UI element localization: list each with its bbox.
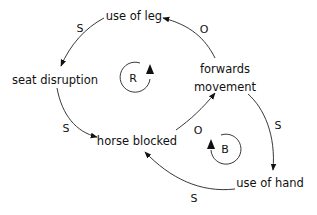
loop-arrow-b-icon	[207, 139, 215, 149]
node-horse-blocked: horse blocked	[97, 134, 177, 148]
loop-indicator-reinforcing: R	[120, 62, 154, 92]
loop-label-b: B	[221, 143, 229, 156]
link-forwards-movement-to-use-of-hand	[248, 94, 273, 170]
loop-indicator-balancing: B	[207, 134, 241, 164]
node-forwards-movement-line2: movement	[194, 80, 257, 94]
causal-loop-diagram: use of leg seat disruption horse blocked…	[0, 0, 317, 215]
node-seat-disruption: seat disruption	[12, 73, 98, 87]
polarity-label-forwards-to-leg: O	[200, 23, 209, 36]
polarity-label-forwards-to-hand: S	[275, 119, 282, 132]
polarity-label-blocked-to-forwards: O	[194, 124, 203, 137]
node-forwards-movement-line1: forwards	[200, 62, 250, 76]
loop-arrow-r-icon	[146, 64, 154, 74]
loop-label-r: R	[129, 72, 137, 85]
polarity-label-hand-to-blocked: S	[191, 192, 198, 205]
polarity-label-seat-to-blocked: S	[63, 122, 70, 135]
node-use-of-hand: use of hand	[236, 176, 304, 190]
polarity-label-leg-to-seat: S	[77, 22, 84, 35]
link-use-of-hand-to-horse-blocked	[145, 152, 235, 190]
node-use-of-leg: use of leg	[106, 9, 162, 23]
